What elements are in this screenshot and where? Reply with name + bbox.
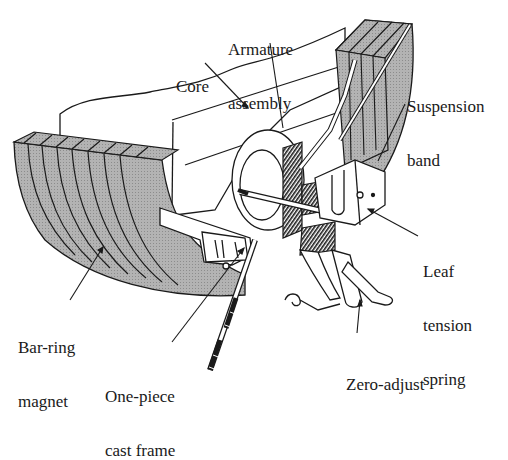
label-line: band bbox=[407, 152, 484, 170]
label-suspension-band: Suspension band bbox=[407, 62, 484, 206]
label-line: One-piece bbox=[105, 388, 175, 406]
label-line: tension bbox=[423, 317, 472, 335]
label-line: cast frame bbox=[105, 442, 175, 460]
label-line: assembly bbox=[228, 95, 293, 113]
spring-housing bbox=[315, 160, 385, 225]
label-bar-ring-magnet: Bar-ring magnet bbox=[18, 303, 75, 447]
label-line: Armature bbox=[228, 41, 293, 59]
label-line: magnet bbox=[18, 393, 75, 411]
label-zero-adjust: Zero-adjust bbox=[346, 340, 424, 430]
label-line: Suspension bbox=[407, 98, 484, 116]
label-line: Bar-ring bbox=[18, 339, 75, 357]
label-line: spring bbox=[423, 371, 472, 389]
label-leaf-tension-spring: Leaf tension spring bbox=[423, 227, 472, 425]
label-line: Zero-adjust bbox=[346, 376, 424, 394]
label-line: Core bbox=[176, 78, 209, 96]
label-core: Core bbox=[176, 42, 209, 132]
label-line: Leaf bbox=[423, 263, 472, 281]
label-armature-assembly: Armature assembly bbox=[228, 5, 293, 149]
bar-ring-magnet-right bbox=[336, 20, 413, 185]
label-one-piece-cast-frame: One-piece cast frame bbox=[105, 352, 175, 460]
